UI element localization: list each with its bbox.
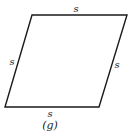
right-side-label: s — [114, 59, 119, 70]
rhombus-shape — [5, 15, 127, 107]
figure-caption: (g) — [42, 119, 58, 131]
rhombus-diagram: s s s s (g) — [0, 0, 130, 131]
top-side-label: s — [73, 3, 78, 14]
bottom-side-label: s — [47, 108, 52, 119]
left-side-label: s — [9, 56, 14, 67]
